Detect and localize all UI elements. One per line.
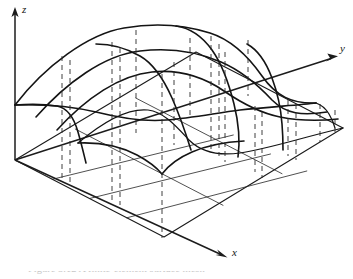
figure-container: z y x Figure 5.12 A finite-element surfa… [0, 0, 353, 279]
base-grid-line-x2 [90, 154, 271, 199]
surface-mesh-plot: z y x [0, 0, 353, 279]
base-grid-line-y2 [136, 98, 282, 174]
mesh-curves-along-x [15, 26, 335, 174]
base-grid-line-x3 [127, 171, 307, 218]
figure-caption: Figure 5.12 A finite-element surface mes… [28, 271, 205, 274]
mesh-curve-valley-right [162, 141, 244, 174]
y-axis-arrowhead [326, 53, 338, 61]
x-axis-label: x [231, 246, 237, 258]
mesh-curves-along-y [15, 25, 343, 154]
z-axis-label: z [21, 3, 27, 15]
y-axis-label: y [339, 42, 345, 54]
base-grid-line-y1 [75, 129, 223, 205]
figure-caption-strip: Figure 5.12 A finite-element surface mes… [0, 271, 353, 279]
drop-lines [62, 30, 335, 238]
mesh-curve-y3 [247, 44, 283, 150]
